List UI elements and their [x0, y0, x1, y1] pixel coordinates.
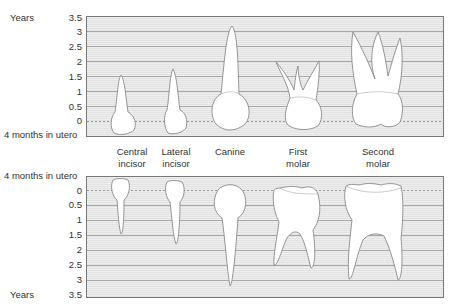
upper-canine-tooth — [212, 26, 249, 130]
upper-first-molar-tooth — [276, 61, 322, 130]
lower-lateral-incisor-tooth — [166, 181, 185, 245]
lower-first-molar-tooth — [273, 187, 320, 269]
upper-central-incisor-tooth — [111, 75, 135, 134]
diagram-drawing — [0, 0, 455, 306]
upper-lateral-incisor-tooth — [164, 69, 186, 134]
lower-central-incisor-tooth — [112, 179, 130, 235]
